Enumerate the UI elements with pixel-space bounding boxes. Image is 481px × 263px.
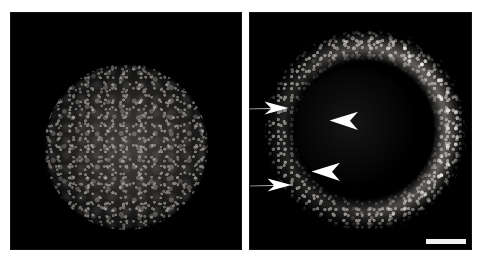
spheroid-nuclei-medium (44, 64, 208, 230)
panel-left (10, 12, 242, 250)
cyst-rim-nuclei (263, 26, 467, 234)
cyst-rim-bright-arc (267, 30, 463, 230)
spheroid-signal-glow (46, 66, 206, 228)
cyst-lumen (295, 68, 415, 188)
spheroid-nuclei-diffuse (44, 64, 208, 230)
cyst-rim-band (267, 30, 463, 230)
spheroid-nuclei-fine (44, 64, 208, 230)
panel-right (249, 12, 472, 250)
figure-root (0, 0, 481, 263)
cyst-rim-nuclei-bright (263, 26, 467, 234)
